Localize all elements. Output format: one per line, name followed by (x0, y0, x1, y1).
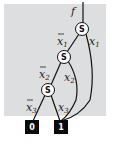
node-s2: S (58, 51, 71, 64)
terminal-1: 1 (54, 120, 68, 134)
edge-label-not-x3: x3 (26, 100, 37, 115)
edge-label-not-x2: x2 (39, 67, 50, 82)
svg-text:S: S (45, 86, 51, 95)
edge-label-x3: x3 (58, 101, 69, 115)
edge-s1-s2 (67, 34, 79, 52)
edge-s2-s3 (51, 62, 61, 85)
svg-text:S: S (61, 53, 67, 62)
svg-text:S: S (79, 25, 85, 34)
svg-text:x3: x3 (58, 101, 69, 115)
output-label: f (70, 5, 77, 18)
node-s3: S (42, 84, 55, 97)
svg-text:1: 1 (58, 123, 64, 132)
edge-label-not-x1: x1 (57, 34, 68, 49)
svg-text:x3: x3 (26, 101, 37, 115)
svg-text:0: 0 (29, 123, 35, 132)
svg-text:x1: x1 (57, 35, 68, 49)
bdd-diagram: f x1 x1 x2 x2 x3 x3 S S S 0 (0, 0, 117, 144)
terminal-0: 0 (25, 120, 39, 134)
svg-text:x1: x1 (89, 35, 100, 49)
node-s1: S (76, 23, 89, 36)
svg-text:x2: x2 (39, 68, 50, 82)
edge-label-x1: x1 (89, 35, 100, 49)
